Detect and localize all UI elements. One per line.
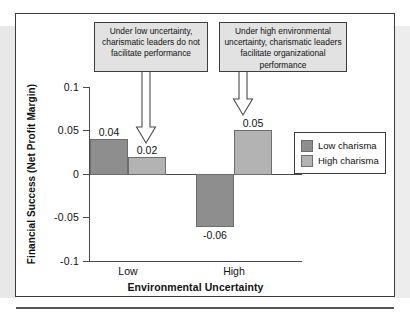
figure-bottom-rule (16, 307, 394, 309)
figure-page: 0.1 0.05 0 -0.05 -0.1 Financial Success … (0, 0, 410, 314)
page-edge-shadow-right (394, 26, 410, 298)
page-edge-shadow-left (0, 26, 16, 298)
figure-frame (15, 13, 395, 297)
